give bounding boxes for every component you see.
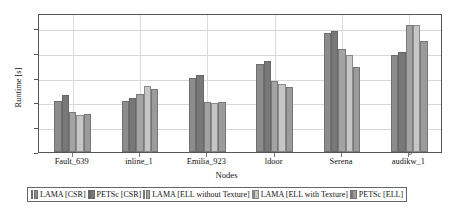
bar: [398, 52, 405, 152]
x-tick-mark: [139, 153, 140, 157]
y-gridline: [39, 80, 441, 81]
legend-label: LAMA [ELL with Texture]: [261, 191, 348, 199]
bar: [144, 86, 151, 152]
bar: [136, 94, 143, 152]
legend-swatch-icon: [34, 190, 39, 199]
bar: [353, 67, 360, 152]
x-tick-mark: [408, 153, 409, 157]
x-tick-label: Serena: [330, 157, 353, 166]
plot-area: [38, 14, 442, 153]
bar: [406, 25, 413, 152]
x-tick-mark: [206, 153, 207, 157]
legend-entry[interactable]: LAMA [ELL without Texture]: [142, 190, 250, 199]
bar: [264, 61, 271, 152]
bar: [69, 112, 76, 152]
bar: [331, 31, 338, 152]
bar: [62, 95, 69, 152]
bar: [338, 49, 345, 152]
legend-label: PETSc [ELL]: [359, 191, 403, 199]
x-tick-label: Emilia_923: [187, 157, 226, 166]
bar: [271, 81, 278, 152]
y-gridline: [39, 104, 441, 105]
bar: [256, 64, 263, 152]
bar: [189, 78, 196, 152]
bar: [151, 89, 158, 152]
legend-swatch-icon: [90, 190, 95, 199]
x-tick-mark: [72, 153, 73, 157]
bar: [211, 103, 218, 152]
legend-entry[interactable]: PETSc [ELL]: [349, 190, 404, 199]
bar: [196, 75, 203, 152]
bar: [204, 102, 211, 152]
y-gridline: [39, 30, 441, 31]
y-tick-mark: [34, 153, 39, 154]
bar: [122, 101, 129, 152]
bar: [413, 25, 420, 152]
legend-swatch-icon: [254, 190, 259, 199]
bar: [391, 55, 398, 152]
x-axis-label: Nodes: [0, 170, 453, 180]
bar: [218, 102, 225, 152]
chart-root: Runtime [s] 0246810 Fault_639inline_1Emi…: [0, 0, 453, 210]
bar: [324, 33, 331, 152]
x-tick-label: audikw_1: [392, 157, 425, 166]
x-tick-label: Fault_639: [55, 157, 89, 166]
legend-label: LAMA [CSR]: [40, 191, 86, 199]
chart-legend: LAMA [CSR]PETSc [CSR]LAMA [ELL without T…: [27, 187, 407, 202]
bar: [54, 101, 61, 153]
plot-inner: [39, 15, 441, 152]
bar: [346, 55, 353, 152]
legend-swatch-icon: [146, 190, 151, 199]
y-gridline: [39, 129, 441, 130]
bar: [420, 41, 427, 152]
x-tick-mark: [274, 153, 275, 157]
x-tick-mark: [341, 153, 342, 157]
legend-swatch-icon: [352, 190, 357, 199]
legend-entry[interactable]: LAMA [CSR]: [30, 190, 87, 199]
y-axis-label: Runtime [s]: [14, 33, 23, 143]
y-gridline: [39, 55, 441, 56]
legend-entry[interactable]: PETSc [CSR]: [87, 190, 143, 199]
legend-entry[interactable]: LAMA [ELL with Texture]: [251, 190, 349, 199]
x-tick-label: ldoor: [265, 157, 283, 166]
bar: [278, 84, 285, 152]
bar: [84, 114, 91, 152]
bar: [129, 98, 136, 152]
bar: [286, 87, 293, 152]
bar: [76, 115, 83, 152]
x-tick-label: inline_1: [125, 157, 152, 166]
legend-label: LAMA [ELL without Texture]: [152, 191, 249, 199]
legend-label: PETSc [CSR]: [97, 191, 142, 199]
